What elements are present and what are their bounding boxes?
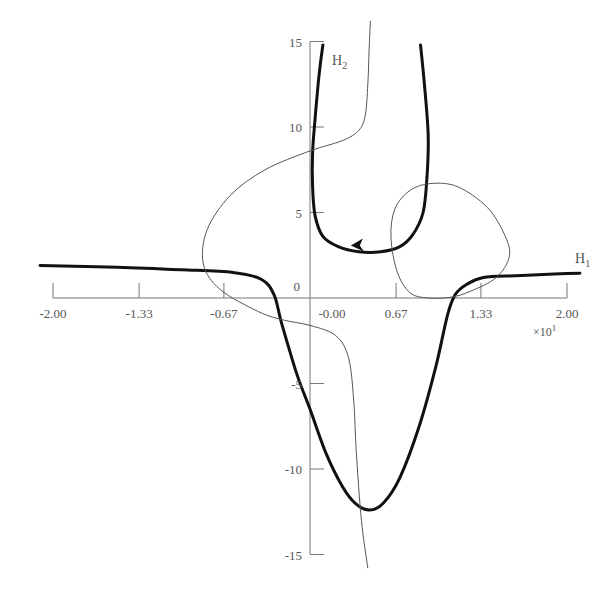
x-tick-label: -1.33 — [126, 306, 153, 321]
y-axis-label-main: H — [332, 53, 342, 68]
x-multiplier-exponent: 1 — [552, 323, 557, 333]
y-tick-label: -15 — [285, 548, 302, 563]
y-tick-label: -10 — [285, 462, 302, 477]
x-tick-label: -0.00 — [318, 306, 345, 321]
series-thin-curve — [202, 21, 370, 568]
y-tick-label: 5 — [296, 206, 303, 221]
x-axis-label-main: H — [575, 251, 585, 266]
x-tick-label: -0.67 — [210, 306, 238, 321]
y-tick-label: 0 — [294, 279, 301, 294]
y-tick-label: 10 — [289, 120, 302, 135]
y-tick-label: 15 — [289, 35, 302, 50]
y-axis-label-sub: 2 — [342, 60, 347, 71]
x-axis-label-sub: 1 — [585, 258, 590, 269]
x-multiplier-label: ×101 — [533, 323, 556, 339]
x-multiplier-base: ×10 — [533, 325, 552, 339]
x-tick-label: 0.67 — [385, 306, 408, 321]
axes — [53, 42, 567, 555]
series-thick-upper-branch — [312, 45, 428, 253]
x-tick-label: -2.00 — [39, 306, 66, 321]
x-axis-label: H1 — [575, 251, 590, 269]
x-tick-label: 2.00 — [556, 306, 579, 321]
chart: -2.00-1.33-0.67-0.000.671.332.00151050-5… — [0, 0, 604, 598]
y-axis-label: H2 — [332, 53, 347, 71]
x-tick-label: 1.33 — [470, 306, 493, 321]
y-tick-label: -5 — [291, 377, 302, 392]
